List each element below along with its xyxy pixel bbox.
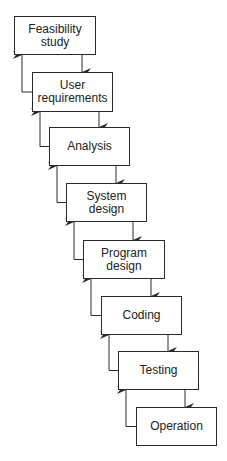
stage-label: Userrequirements [37,79,107,105]
stage-label: Systemdesign [86,190,126,216]
stage-operation: Operation [136,407,217,446]
stage-system-design: Systemdesign [66,183,147,222]
feedback-arrow [91,279,101,316]
feedback-arrow [40,112,49,147]
stage-label: Testing [139,364,177,377]
stage-analysis: Analysis [49,127,130,166]
stage-label: Operation [150,420,203,433]
stage-label: Feasibilitystudy [28,23,81,49]
stage-user-requirements: Userrequirements [32,72,113,112]
stage-label: Coding [122,309,160,322]
feedback-arrow [57,166,66,203]
stage-program-design: Programdesign [83,240,165,279]
stage-testing: Testing [118,351,199,390]
feedback-arrow [126,390,136,427]
stage-coding: Coding [101,296,182,335]
feedback-arrow [109,335,118,371]
stage-feasibility-study: Feasibilitystudy [14,16,96,55]
stage-label: Analysis [67,140,112,153]
feedback-arrow [22,55,32,92]
stage-label: Programdesign [101,247,147,273]
feedback-arrow [74,222,83,260]
arrows-layer [0,0,227,461]
